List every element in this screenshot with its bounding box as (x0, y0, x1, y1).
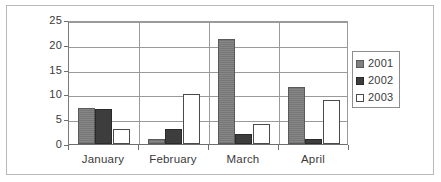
y-axis-tick-label: 20 (49, 40, 62, 51)
legend-item-label: 2002 (368, 75, 393, 86)
x-axis-tick-mark (68, 145, 69, 150)
x-axis-tick-label: April (278, 152, 348, 166)
legend-item[interactable]: 2002 (356, 72, 399, 89)
x-axis-tick-label: March (208, 152, 278, 166)
x-axis-tick-mark (278, 145, 279, 150)
x-axis-tick-mark (138, 145, 139, 150)
chart-screenshot: 0510152025 JanuaryFebruaryMarchApril 200… (0, 0, 441, 182)
y-axis-tick-label: 0 (56, 139, 62, 150)
bar (305, 139, 322, 144)
legend-item-label: 2003 (368, 92, 393, 103)
dark-filled-swatch-icon (356, 77, 364, 85)
category-separator (139, 22, 140, 144)
bar (183, 94, 200, 144)
legend-item[interactable]: 2003 (356, 89, 399, 106)
white-outlined-swatch-icon (356, 94, 364, 102)
bar (235, 134, 252, 144)
chart-legend: 2001 2002 2003 (352, 51, 400, 108)
bar (148, 139, 165, 144)
legend-item[interactable]: 2001 (356, 55, 399, 72)
x-axis-tick-mark (208, 145, 209, 150)
y-axis-tick-label: 15 (49, 65, 62, 76)
category-separator (279, 22, 280, 144)
bar (323, 100, 340, 144)
gridline (69, 22, 347, 23)
bar (288, 87, 305, 144)
plot-area (68, 21, 348, 145)
bar (253, 124, 270, 144)
category-separator (209, 22, 210, 144)
gridline (69, 96, 347, 97)
x-axis-tick-label: February (138, 152, 208, 166)
x-axis-tick-mark (348, 145, 349, 150)
bar (218, 39, 235, 144)
gridline (69, 47, 347, 48)
y-axis-tick-label: 10 (49, 89, 62, 100)
y-axis-tick-label: 25 (49, 15, 62, 26)
bar (113, 129, 130, 144)
bar (165, 129, 182, 144)
x-axis-labels: JanuaryFebruaryMarchApril (68, 152, 348, 168)
x-axis-tick-label: January (68, 152, 138, 166)
bar (78, 108, 95, 144)
y-axis-tick-label: 5 (56, 114, 62, 125)
y-axis-labels: 0510152025 (36, 0, 62, 182)
gray-filled-swatch-icon (356, 60, 364, 68)
gridline (69, 72, 347, 73)
legend-item-label: 2001 (368, 58, 393, 69)
bar (95, 109, 112, 144)
